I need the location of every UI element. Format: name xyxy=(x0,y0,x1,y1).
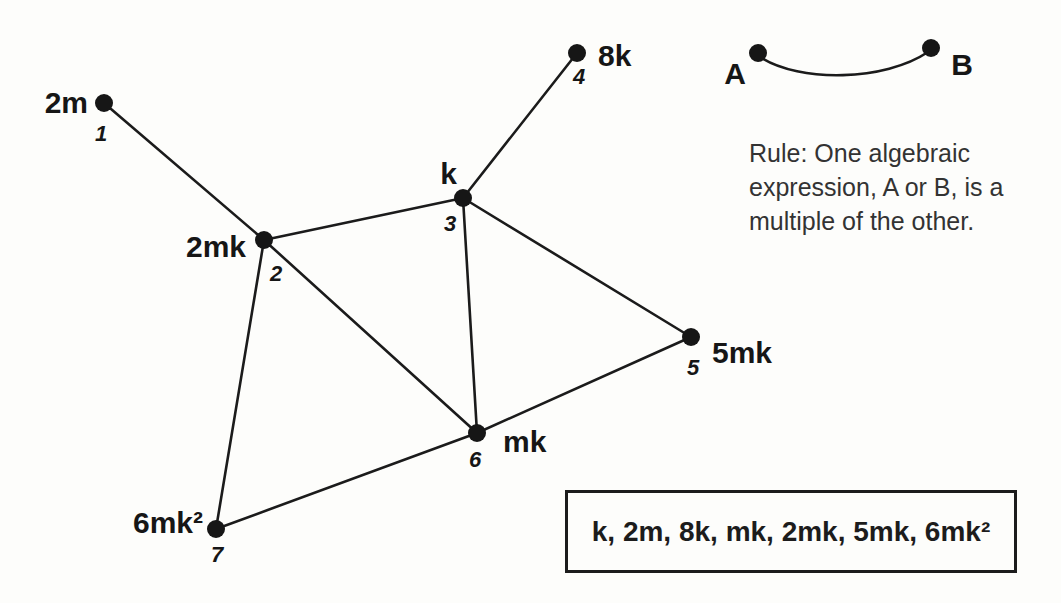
node-label-k: k xyxy=(440,157,457,190)
edge-k-8k xyxy=(463,53,577,198)
legend-label-b: B xyxy=(951,48,973,81)
node-dot-5mk xyxy=(682,328,700,346)
legend-dot-b xyxy=(922,39,940,57)
edge-2mk-k xyxy=(264,198,463,240)
node-label-2mk: 2mk xyxy=(186,230,246,263)
worksheet-diagram: 2m 2mk k 8k 5mk mk 6mk² 1 2 3 4 5 6 7 A … xyxy=(0,0,1061,603)
node-dot-2mk xyxy=(255,231,273,249)
node-label-8k: 8k xyxy=(598,39,632,72)
node-label-5mk: 5mk xyxy=(712,336,772,369)
legend-curve xyxy=(760,52,928,75)
node-label-2m: 2m xyxy=(45,86,88,119)
node-dot-mk xyxy=(468,424,486,442)
edge-2mk-6mk2 xyxy=(216,240,264,529)
edge-2m-2mk xyxy=(104,103,264,240)
expression-list-text: k, 2m, 8k, mk, 2mk, 5mk, 6mk² xyxy=(592,516,990,548)
rule-line-3: multiple of the other. xyxy=(749,204,1049,238)
node-number-7: 7 xyxy=(211,542,225,567)
node-number-3: 3 xyxy=(444,211,456,236)
node-number-1: 1 xyxy=(95,121,107,146)
node-number-2: 2 xyxy=(269,261,283,286)
node-dot-6mk2 xyxy=(207,520,225,538)
rule-line-1: Rule: One algebraic xyxy=(749,136,1049,170)
expression-list-box: k, 2m, 8k, mk, 2mk, 5mk, 6mk² xyxy=(565,490,1017,573)
rule-line-2: expression, A or B, is a xyxy=(749,170,1049,204)
node-number-5: 5 xyxy=(687,355,700,380)
node-number-6: 6 xyxy=(469,447,482,472)
node-dot-8k xyxy=(568,44,586,62)
node-label-6mk2: 6mk² xyxy=(133,506,203,539)
node-number-4: 4 xyxy=(572,64,585,89)
node-dot-2m xyxy=(95,94,113,112)
rule-text: Rule: One algebraic expression, A or B, … xyxy=(749,136,1049,238)
graph-nodes xyxy=(95,44,700,538)
legend-label-a: A xyxy=(724,57,746,90)
edge-2mk-mk xyxy=(264,240,477,433)
edge-k-mk xyxy=(463,198,477,433)
node-dot-k xyxy=(454,189,472,207)
graph-edges xyxy=(104,53,691,529)
edge-5mk-mk xyxy=(477,337,691,433)
edge-mk-6mk2 xyxy=(216,433,477,529)
node-label-mk: mk xyxy=(503,425,547,458)
graph-node-labels: 2m 2mk k 8k 5mk mk 6mk² xyxy=(45,39,773,539)
legend-dot-a xyxy=(749,44,767,62)
legend-edge-example: A B xyxy=(724,39,973,90)
edge-k-5mk xyxy=(463,198,691,337)
